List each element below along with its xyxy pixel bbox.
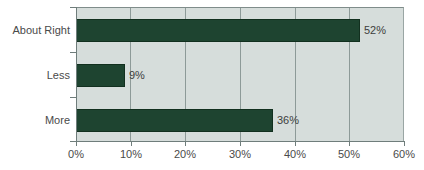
x-axis-tick-60 [404, 142, 405, 146]
x-axis-label-60: 60% [384, 148, 424, 160]
x-axis-label-20: 20% [165, 148, 205, 160]
plot-area [76, 7, 404, 141]
value-label-more: 36% [277, 114, 299, 126]
x-axis-tick-10 [131, 142, 132, 146]
value-label-about-right: 52% [364, 24, 386, 36]
y-axis-tick-2 [70, 97, 76, 98]
bar-about-right [76, 19, 360, 42]
bar-chart: About Right Less More 52% 9% 36% 0% 10% … [0, 0, 424, 170]
x-axis-label-0: 0% [56, 148, 96, 160]
y-axis-tick-top [70, 7, 76, 8]
category-label-less: Less [0, 69, 70, 81]
x-axis-tick-0 [76, 142, 77, 146]
x-axis-tick-50 [349, 142, 350, 146]
x-axis-label-40: 40% [275, 148, 315, 160]
bar-more [76, 109, 273, 132]
y-axis-tick-1 [70, 52, 76, 53]
category-label-about-right: About Right [0, 24, 70, 36]
x-axis-tick-30 [240, 142, 241, 146]
x-axis-tick-40 [295, 142, 296, 146]
bar-less [76, 64, 125, 87]
category-label-more: More [0, 114, 70, 126]
x-axis-label-10: 10% [111, 148, 151, 160]
value-label-less: 9% [129, 69, 145, 81]
x-axis-tick-20 [185, 142, 186, 146]
x-axis-label-30: 30% [220, 148, 260, 160]
x-axis-label-50: 50% [329, 148, 369, 160]
y-axis-line [76, 7, 77, 142]
